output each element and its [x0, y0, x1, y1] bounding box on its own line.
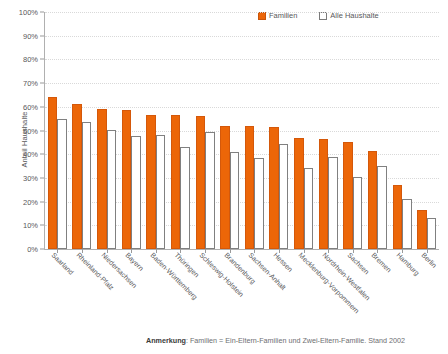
y-axis-tick-label: 30% [23, 173, 38, 182]
y-axis-tick-label: 50% [23, 126, 38, 135]
y-axis-tick-label: 60% [23, 102, 38, 111]
bar-familien[interactable] [122, 110, 132, 249]
bar-familien[interactable] [245, 126, 255, 249]
bar-group [217, 12, 242, 249]
x-axis-category-cell: Hamburg [389, 252, 414, 322]
x-axis-category-cell: Mecklenburg-Vorpommern [290, 252, 315, 322]
bar-group [119, 12, 144, 249]
bar-alle-haushalte[interactable] [107, 130, 117, 249]
bar-familien[interactable] [294, 138, 304, 249]
bar-alle-haushalte[interactable] [279, 144, 289, 249]
x-axis-category-cell: Baden-Württemberg [143, 252, 168, 322]
x-axis-category-cell: Sachsen-Anhalt [241, 252, 266, 322]
bar-alle-haushalte[interactable] [353, 177, 363, 249]
bar-group [267, 12, 292, 249]
y-axis-tick-label: 0% [27, 245, 38, 254]
x-axis-category-cell: Bremen [364, 252, 389, 322]
bar-group [341, 12, 366, 249]
bar-familien[interactable] [368, 151, 378, 249]
y-axis-tick-label: 10% [23, 221, 38, 230]
bar-group [45, 12, 70, 249]
y-axis-tick-labels: 100%90%80%70%60%50%40%30%20%10%0% [0, 0, 44, 250]
bar-alle-haushalte[interactable] [254, 158, 264, 249]
chart-footnote: Anmerkung: Familien = Ein-Eltern-Familie… [146, 336, 405, 345]
bar-alle-haushalte[interactable] [230, 152, 240, 249]
bar-familien[interactable] [319, 139, 329, 249]
x-axis-category-cell: Sachsen [340, 252, 365, 322]
x-axis-category-cell: Schleswig-Holstein [192, 252, 217, 322]
bar-group [242, 12, 267, 249]
y-axis-tick-label: 80% [23, 55, 38, 64]
bar-alle-haushalte[interactable] [328, 157, 338, 249]
x-axis-category-cell: Niedersachsen [93, 252, 118, 322]
x-axis-category-cell: Hessen [266, 252, 291, 322]
plot-area [44, 12, 439, 250]
y-axis-tick-label: 40% [23, 150, 38, 159]
y-axis-tick-label: 90% [23, 31, 38, 40]
bar-group [70, 12, 95, 249]
bar-familien[interactable] [269, 127, 279, 249]
bar-alle-haushalte[interactable] [131, 136, 141, 249]
bar-familien[interactable] [171, 115, 181, 249]
bar-alle-haushalte[interactable] [205, 132, 215, 249]
bar-group [365, 12, 390, 249]
bar-familien[interactable] [343, 142, 353, 249]
bar-alle-haushalte[interactable] [180, 147, 190, 249]
bar-group [193, 12, 218, 249]
bar-familien[interactable] [220, 126, 230, 249]
y-axis-tick-label: 100% [19, 8, 38, 17]
footnote-label: Anmerkung [146, 336, 186, 345]
bar-alle-haushalte[interactable] [156, 135, 166, 249]
bar-group [94, 12, 119, 249]
bar-alle-haushalte[interactable] [304, 168, 314, 249]
bar-group [291, 12, 316, 249]
bar-group [168, 12, 193, 249]
bar-series-container [45, 12, 439, 249]
y-axis-tick-label: 70% [23, 79, 38, 88]
bar-alle-haushalte[interactable] [377, 166, 387, 249]
x-axis-category-cell: Brandenburg [216, 252, 241, 322]
chart-container: Familien Alle Haushalte Anteil Haushalte… [0, 0, 448, 354]
x-axis-category-cell: Bayern [118, 252, 143, 322]
x-axis-category-cell: Saarland [44, 252, 69, 322]
bar-alle-haushalte[interactable] [57, 119, 67, 249]
bar-familien[interactable] [48, 97, 58, 249]
bar-group [390, 12, 415, 249]
bar-alle-haushalte[interactable] [82, 122, 92, 250]
x-axis-category-cell: Nordrhein-Westfalen [315, 252, 340, 322]
footnote-text: : Familien = Ein-Eltern-Familien und Zwe… [186, 336, 405, 345]
bar-familien[interactable] [417, 210, 427, 249]
bar-familien[interactable] [72, 104, 82, 249]
x-axis-category-labels: SaarlandRheinland-PfalzNiedersachsenBaye… [44, 252, 438, 322]
bar-alle-haushalte[interactable] [427, 218, 437, 249]
bar-familien[interactable] [393, 185, 403, 249]
x-axis-category-cell: Rheinland-Pfalz [69, 252, 94, 322]
bar-alle-haushalte[interactable] [402, 199, 412, 249]
bar-familien[interactable] [196, 116, 206, 249]
bar-familien[interactable] [97, 109, 107, 249]
y-axis-tick-label: 20% [23, 197, 38, 206]
bar-group [316, 12, 341, 249]
x-axis-category-label: Berlin [420, 251, 438, 269]
x-axis-category-cell: Thüringen [167, 252, 192, 322]
bar-group [414, 12, 439, 249]
x-axis-category-cell: Berlin [413, 252, 438, 322]
bar-group [144, 12, 169, 249]
bar-familien[interactable] [146, 115, 156, 249]
